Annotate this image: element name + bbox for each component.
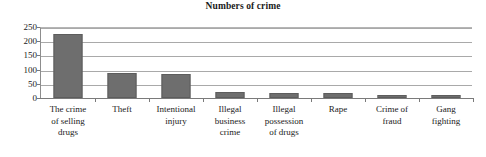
x-axis-category-label: Illegalpossessionof drugs bbox=[253, 104, 315, 139]
y-axis-tick-mark bbox=[37, 84, 40, 85]
y-axis: 050100150200250 bbox=[0, 27, 37, 99]
y-axis-tick-mark bbox=[37, 41, 40, 42]
x-axis-category-label: Crime offraud bbox=[361, 104, 423, 127]
bar[interactable] bbox=[432, 95, 461, 98]
bar[interactable] bbox=[324, 93, 353, 98]
y-axis-tick-label: 0 bbox=[3, 94, 37, 103]
y-axis-tick-mark bbox=[37, 98, 40, 99]
x-axis-tick-mark bbox=[203, 99, 204, 102]
bar[interactable] bbox=[54, 34, 83, 98]
bars-layer bbox=[41, 27, 473, 98]
x-axis-category-label-line: Illegal bbox=[199, 104, 261, 116]
x-axis-tick-mark bbox=[365, 99, 366, 102]
x-axis-tick-mark bbox=[311, 99, 312, 102]
x-axis-category-label: Illegalbusinesscrime bbox=[199, 104, 261, 139]
bar[interactable] bbox=[270, 93, 299, 98]
bar[interactable] bbox=[378, 95, 407, 98]
bar-chart-figure: Numbers of crime 050100150200250 The cri… bbox=[0, 0, 486, 157]
x-axis-category-label-line: possession bbox=[253, 116, 315, 128]
bar-slot bbox=[203, 27, 257, 98]
bar[interactable] bbox=[162, 74, 191, 98]
y-axis-tick-label: 250 bbox=[3, 23, 37, 32]
x-axis-category-label: The crimeof sellingdrugs bbox=[37, 104, 99, 139]
bar-slot bbox=[41, 27, 95, 98]
x-axis-tick-mark bbox=[257, 99, 258, 102]
bar-slot bbox=[311, 27, 365, 98]
x-axis-category-label: Rape bbox=[307, 104, 369, 116]
x-axis-category-label: Gangfighting bbox=[415, 104, 477, 127]
x-axis-category-label-line: of drugs bbox=[253, 127, 315, 139]
x-axis-category-label-line: Crime of bbox=[361, 104, 423, 116]
x-axis-category-label-line: injury bbox=[145, 116, 207, 128]
x-axis-tick-mark bbox=[149, 99, 150, 102]
x-axis-category-label: Theft bbox=[91, 104, 153, 116]
x-axis-category-label-line: fighting bbox=[415, 116, 477, 128]
bar-slot bbox=[419, 27, 473, 98]
x-axis-category-label-line: crime bbox=[199, 127, 261, 139]
x-axis-tick-mark bbox=[473, 99, 474, 102]
x-axis-category-label-line: drugs bbox=[37, 127, 99, 139]
bar-slot bbox=[365, 27, 419, 98]
x-axis-tick-mark bbox=[95, 99, 96, 102]
bar-slot bbox=[95, 27, 149, 98]
x-axis-category-label-line: business bbox=[199, 116, 261, 128]
x-axis-labels: The crimeof sellingdrugsTheftIntentional… bbox=[41, 104, 473, 154]
x-axis-category-label-line: Gang bbox=[415, 104, 477, 116]
y-axis-tick-label: 200 bbox=[3, 37, 37, 46]
bar[interactable] bbox=[108, 73, 137, 98]
x-axis-tick-mark bbox=[419, 99, 420, 102]
x-axis-category-label-line: fraud bbox=[361, 116, 423, 128]
bar-slot bbox=[149, 27, 203, 98]
y-axis-tick-mark bbox=[37, 27, 40, 28]
y-axis-tick-label: 100 bbox=[3, 66, 37, 75]
x-axis-category-label-line: of selling bbox=[37, 116, 99, 128]
y-axis-tick-mark bbox=[37, 55, 40, 56]
y-axis-tick-mark bbox=[37, 70, 40, 71]
y-axis-tick-label: 150 bbox=[3, 51, 37, 60]
x-axis-category-label-line: Illegal bbox=[253, 104, 315, 116]
bar-slot bbox=[257, 27, 311, 98]
chart-title: Numbers of crime bbox=[0, 1, 486, 11]
x-axis-category-label-line: Intentional bbox=[145, 104, 207, 116]
bar[interactable] bbox=[216, 92, 245, 98]
x-axis-category-label-line: Theft bbox=[91, 104, 153, 116]
x-axis-category-label-line: The crime bbox=[37, 104, 99, 116]
x-axis-category-label-line: Rape bbox=[307, 104, 369, 116]
y-axis-tick-label: 50 bbox=[3, 80, 37, 89]
x-axis-category-label: Intentionalinjury bbox=[145, 104, 207, 127]
